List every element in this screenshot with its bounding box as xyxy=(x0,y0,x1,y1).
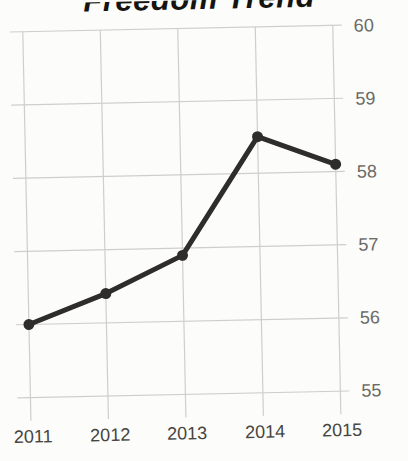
gridline-h xyxy=(13,171,345,178)
x-tick-label: 2012 xyxy=(80,424,140,445)
gridline-h xyxy=(11,98,343,105)
y-tick-label: 55 xyxy=(361,380,407,401)
chart-canvas: Freedom Trend 60 59 58 57 56 55 2011 201… xyxy=(0,0,408,461)
x-tick-label: 2011 xyxy=(3,426,63,447)
gridline-v xyxy=(178,29,186,418)
y-tick-label: 56 xyxy=(360,307,406,328)
y-tick-label: 59 xyxy=(355,88,401,109)
y-tick-label: 58 xyxy=(357,161,403,182)
y-tick-label: 60 xyxy=(354,15,400,36)
x-tick-label: 2014 xyxy=(235,421,295,442)
gridline-h xyxy=(16,318,348,325)
y-tick-label: 57 xyxy=(358,234,404,255)
gridline-h xyxy=(10,25,342,32)
gridline-h xyxy=(17,391,349,398)
x-tick-label: 2013 xyxy=(157,423,217,444)
gridline-v xyxy=(255,27,263,416)
gridline-v xyxy=(333,25,341,414)
trend-chart-svg xyxy=(0,0,408,461)
x-tick-label: 2015 xyxy=(312,420,372,441)
gridline-v xyxy=(23,32,31,421)
gridline-v xyxy=(100,30,108,419)
